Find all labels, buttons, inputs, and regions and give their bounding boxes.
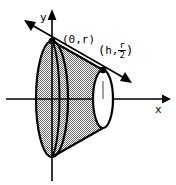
point-label-h-r-over-2: (h,r2): [98, 41, 133, 61]
paren-close: ): [126, 45, 133, 57]
point-marker-p0: [49, 38, 56, 45]
y-axis-arrowhead: [48, 9, 57, 20]
frustum-diagram: [0, 0, 176, 185]
point-label-origin-r: (0,r): [62, 34, 95, 45]
label-comma: ,: [112, 45, 119, 56]
paren-open: (: [98, 45, 105, 57]
fraction-denominator: 2: [118, 51, 125, 60]
y-axis-label: y: [40, 12, 47, 23]
figure-canvas: y x (0,r) (h,r2): [0, 0, 176, 185]
fraction-numerator: r: [118, 41, 125, 50]
right-face: [93, 70, 113, 128]
x-axis-arrowhead: [162, 95, 171, 104]
label-x-value: h: [105, 45, 112, 56]
fraction-r-over-2: r2: [118, 41, 125, 61]
x-axis-label: x: [155, 104, 162, 115]
point-marker-ph: [100, 67, 107, 74]
